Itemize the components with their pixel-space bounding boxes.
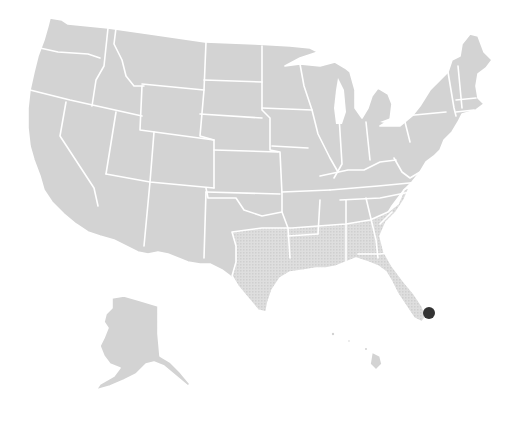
- us-map: [0, 0, 517, 421]
- hawaii: [331, 332, 382, 370]
- location-marker[interactable]: [423, 307, 435, 319]
- alaska: [96, 296, 190, 390]
